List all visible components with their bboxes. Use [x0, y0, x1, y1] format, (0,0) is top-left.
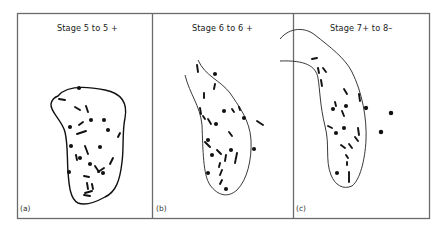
boundary-outline-b: [185, 60, 251, 195]
panel-title-b: Stage 6 to 6 +: [192, 23, 253, 33]
panel-label-b: (b): [156, 204, 167, 213]
figure: Stage 5 to 5 + Stage 6 to 6 + Stage 7+ t…: [0, 0, 434, 231]
panel-label-a: (a): [20, 204, 30, 213]
panel-frame: [18, 14, 430, 219]
panel-title-a: Stage 5 to 5 +: [57, 23, 118, 33]
movement-marks-b: [197, 65, 263, 190]
figure-canvas: [0, 0, 434, 231]
panel-title-c: Stage 7+ to 8–: [330, 23, 392, 33]
panel-label-c: (c): [296, 204, 306, 213]
